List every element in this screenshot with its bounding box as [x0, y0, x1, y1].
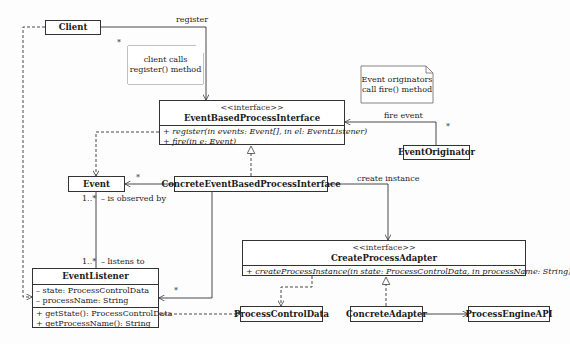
class-name: Client: [59, 22, 88, 33]
event-multiplicity: *: [136, 173, 140, 183]
class-header: <<interface>> CreateProcessAdapter: [243, 241, 525, 266]
note-line: Event originators: [362, 75, 433, 85]
class-name: EventOriginator: [398, 147, 475, 158]
methods-section: + getState(): ProcessControlData + getPr…: [33, 308, 158, 330]
class-event-listener[interactable]: EventListener – state: ProcessControlDat…: [32, 268, 159, 328]
class-name: ConcreteAdapter: [346, 309, 427, 320]
class-name: CreateProcessAdapter: [245, 253, 523, 264]
methods-section: + register(in events: Event[], in el: Ev…: [160, 126, 344, 148]
register-multiplicity: *: [117, 38, 121, 48]
note-line: call fire() method: [362, 85, 432, 95]
class-header: EventListener: [33, 269, 158, 285]
class-create-process-adapter[interactable]: <<interface>> CreateProcessAdapter + cre…: [242, 240, 526, 276]
class-name: EventListener: [35, 271, 156, 282]
is-observed-by-label: – is observed by: [101, 194, 166, 204]
stereotype: <<interface>>: [245, 243, 523, 253]
method: + getProcessName(): String: [36, 319, 155, 329]
method: + createProcessInstance(in state: Proces…: [246, 267, 522, 277]
method: + fire(in e: Event): [163, 137, 341, 147]
attribute: – processName: String: [36, 296, 155, 306]
class-concrete-adapter[interactable]: ConcreteAdapter: [350, 306, 423, 322]
originator-note: Event originators call fire() method: [361, 66, 433, 103]
client-note: client calls register() method: [128, 46, 203, 84]
class-name: EventBasedProcessInterface: [162, 113, 342, 124]
note-line: register() method: [130, 65, 202, 75]
fire-event-label: fire event: [384, 111, 423, 121]
class-event-based-process-interface[interactable]: <<interface>> EventBasedProcessInterface…: [159, 100, 345, 145]
register-label: register: [176, 15, 208, 25]
client-listener-dependency: [23, 27, 45, 297]
create-instance-association: [328, 184, 388, 240]
listens-multiplicity: 1..*: [82, 257, 96, 267]
observed-multiplicity: 1..*: [82, 194, 96, 204]
class-header: <<interface>> EventBasedProcessInterface: [160, 101, 344, 126]
fire-multiplicity: *: [446, 122, 450, 132]
uml-diagram: client calls register() method Event ori…: [0, 0, 570, 344]
interface-event-dependency: [96, 132, 159, 176]
class-name: ConcreteEventBasedProcessInterface: [161, 179, 340, 190]
concrete-listener-association: [159, 192, 212, 298]
class-client[interactable]: Client: [45, 20, 101, 35]
class-concrete-event-based-process-interface[interactable]: ConcreteEventBasedProcessInterface: [174, 176, 328, 192]
note-line: client calls: [144, 55, 188, 65]
class-name: ProcessEngineAPI: [465, 309, 552, 320]
stereotype: <<interface>>: [162, 103, 342, 113]
listens-to-label: – listens to: [101, 257, 145, 267]
class-process-control-data[interactable]: ProcessControlData: [240, 306, 323, 322]
adapter-pcd-dependency: [281, 276, 312, 306]
attributes-section: – state: ProcessControlData – processNam…: [33, 285, 158, 308]
class-event-originator[interactable]: EventOriginator: [403, 145, 470, 160]
listener-multiplicity: *: [174, 286, 178, 296]
method: + getState(): ProcessControlData: [36, 309, 155, 319]
methods-section: + createProcessInstance(in state: Proces…: [243, 266, 525, 278]
class-event[interactable]: Event: [68, 176, 125, 192]
class-name: ProcessControlData: [234, 309, 329, 320]
class-process-engine-api[interactable]: ProcessEngineAPI: [468, 306, 550, 322]
create-instance-label: create instance: [357, 174, 419, 184]
class-name: Event: [83, 179, 110, 190]
method: + register(in events: Event[], in el: Ev…: [163, 127, 341, 137]
attribute: – state: ProcessControlData: [36, 286, 155, 296]
